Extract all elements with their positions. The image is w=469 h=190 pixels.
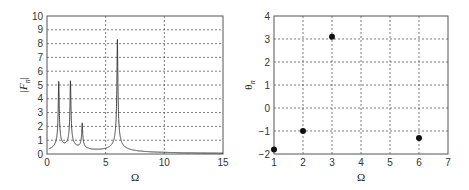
y-tick-label: 1: [264, 80, 270, 91]
phase-point: [300, 128, 306, 134]
x-tick-label: 3: [329, 157, 335, 168]
x-tick-label: 2: [300, 157, 306, 168]
y-tick-label: 2: [264, 57, 270, 68]
y-tick-label: 0: [264, 103, 270, 114]
y-tick-label: 7: [37, 52, 43, 63]
y-tick-label: 4: [264, 11, 270, 22]
y-tick-label: 8: [37, 38, 43, 49]
y-tick-label: 0: [37, 149, 43, 160]
x-tick-label: 7: [445, 157, 451, 168]
x-tick-label: 5: [103, 157, 109, 168]
right-x-axis-label: Ω: [357, 171, 365, 183]
figure: 051015012345678910 1234567−2−101234 Ω Ω …: [0, 0, 469, 190]
y-tick-label: 1: [37, 135, 43, 146]
y-tick-label: 9: [37, 24, 43, 35]
x-tick-label: 1: [271, 157, 277, 168]
y-tick-label: 4: [37, 93, 43, 104]
y-tick-label: 3: [264, 34, 270, 45]
y-tick-label: 5: [37, 80, 43, 91]
x-tick-label: 6: [416, 157, 422, 168]
x-tick-label: 4: [358, 157, 364, 168]
left-y-axis-label: |Fn|: [17, 77, 32, 93]
x-tick-label: 10: [159, 157, 171, 168]
left-x-axis-label: Ω: [131, 171, 139, 183]
right-y-axis-label: θn: [242, 80, 257, 89]
y-tick-label: 6: [37, 66, 43, 77]
y-tick-label: 10: [32, 11, 44, 22]
spectrum-line: [49, 39, 223, 153]
phase-point: [416, 135, 422, 141]
phase-scatter-chart: 1234567−2−101234: [259, 11, 452, 169]
y-tick-label: 2: [37, 121, 43, 132]
x-tick-label: 15: [217, 157, 229, 168]
svg-text:θn: θn: [242, 80, 257, 89]
svg-text:|Fn|: |Fn|: [17, 77, 32, 93]
phase-point: [271, 146, 277, 152]
x-tick-label: 5: [387, 157, 393, 168]
phase-point: [329, 34, 335, 40]
y-tick-label: −2: [259, 149, 271, 160]
magnitude-spectrum-chart: 051015012345678910: [32, 11, 229, 169]
x-tick-label: 0: [44, 157, 50, 168]
y-tick-label: −1: [259, 126, 271, 137]
y-tick-label: 3: [37, 107, 43, 118]
